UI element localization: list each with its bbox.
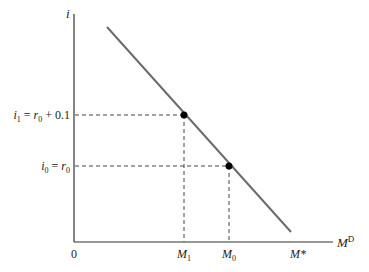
x-axis-label: MD	[336, 234, 355, 250]
point-i1-m1	[181, 112, 188, 119]
label-m-star: M*	[289, 247, 306, 261]
origin-label: 0	[71, 247, 77, 261]
label-i1: i1 = r0 + 0.1	[13, 108, 70, 124]
y-axis-label: i	[66, 6, 70, 21]
label-i0: i0 = r0	[41, 159, 70, 175]
money-demand-diagram: i MD 0 i1 = r0 + 0.1 i0 = r0 M1 M0 M*	[0, 0, 369, 272]
label-m0: M0	[221, 247, 236, 263]
label-m1: M1	[176, 247, 191, 263]
money-demand-curve	[107, 27, 291, 232]
point-i0-m0	[226, 163, 233, 170]
